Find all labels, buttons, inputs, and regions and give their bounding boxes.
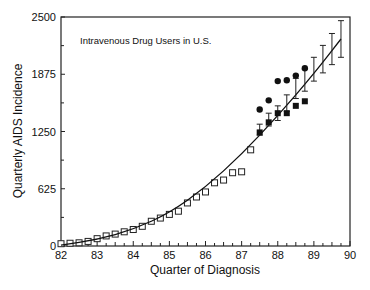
y-tick-label: 625 [38,183,56,195]
x-tick-label: 85 [163,249,175,261]
x-tick-label: 90 [344,249,356,261]
series-projection-with-error-bars [257,21,344,136]
x-tick-label: 84 [127,249,139,261]
data-series [58,21,344,247]
x-tick-label: 83 [91,249,103,261]
annotation-label: Intravenous Drug Users in U.S. [80,35,211,46]
series-fitted-trend [61,39,341,245]
plot-frame [61,17,350,246]
aids-incidence-chart: 0625125018752500 828384858687888990 Intr… [0,0,370,290]
x-tick-label: 89 [308,249,320,261]
chart-canvas: 0625125018752500 828384858687888990 Intr… [0,0,370,290]
x-axis: 828384858687888990 [55,241,356,261]
x-tick-label: 88 [272,249,284,261]
x-axis-label: Quarter of Diagnosis [150,263,260,277]
y-tick-label: 2500 [32,11,56,23]
x-tick-label: 87 [236,249,248,261]
y-tick-label: 1875 [32,68,56,80]
y-tick-label: 1250 [32,126,56,138]
y-axis: 0625125018752500 [32,11,65,252]
series-observed [58,147,254,247]
x-tick-label: 82 [55,249,67,261]
x-tick-label: 86 [199,249,211,261]
y-axis-label: Quarterly AIDS Incidence [11,63,25,198]
